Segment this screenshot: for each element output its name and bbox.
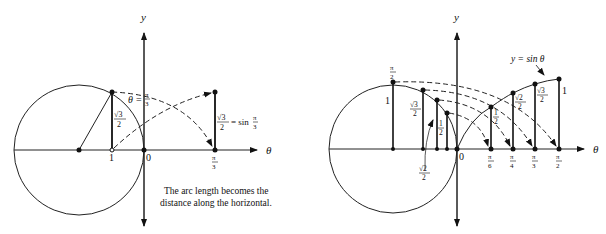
tick-pi4-num: π: [510, 153, 514, 161]
circle-half-num: 1: [439, 119, 443, 128]
tick-pi2-den: 2: [556, 162, 560, 170]
tick-pi6-num: π: [488, 153, 492, 161]
caption-line-1: The arc length becomes the: [164, 186, 268, 196]
circle-sqrt2-num: √2: [419, 164, 427, 173]
tick-pi6-den: 6: [488, 162, 492, 170]
circle-sqrt3-num: √3: [410, 100, 418, 109]
origin-label: 0: [146, 152, 151, 163]
origin-label-right: 0: [459, 151, 464, 162]
curve-label: y = sin θ: [510, 54, 545, 64]
angle-num: π: [145, 91, 149, 99]
tick-pi3-den: 3: [532, 162, 536, 170]
circle-sqrt2-den: 2: [422, 173, 426, 182]
left-panel: y θ 0 1 θ = π 3 √3 2 √3 2 = sin π 3 π 3 …: [14, 11, 272, 226]
sine-unwrapping-diagram: y θ 0 1 θ = π 3 √3 2 √3 2 = sin π 3 π 3 …: [0, 0, 606, 234]
tick-pi3-num: π: [532, 153, 536, 161]
curve-sqrt3-den: 2: [540, 95, 544, 104]
height-num: √3: [114, 110, 122, 119]
tick-num: π: [212, 154, 216, 162]
result-eq: = sin: [231, 117, 249, 127]
result-den: 2: [220, 123, 224, 132]
y-axis-label: y: [140, 11, 146, 23]
result-frac-num: π: [253, 114, 257, 122]
right-panel: y θ 0 y = sin θ π 2 1 √3 2 1 2 √2 2 1 2 …: [329, 11, 599, 226]
curve-sqrt2-num: √2: [515, 93, 523, 102]
circle-sqrt3-den: 2: [413, 109, 417, 118]
curve-one-label: 1: [562, 85, 567, 96]
result-num: √3: [217, 113, 225, 122]
radius-line: [79, 92, 112, 150]
tick-den: 3: [212, 163, 216, 171]
curve-half-den: 2: [494, 117, 498, 126]
curve-sqrt2-den: 2: [518, 102, 522, 111]
height-den: 2: [117, 120, 121, 129]
circle-one-label: 1: [385, 95, 390, 106]
angle-equals: =: [136, 94, 142, 105]
theta-axis-label: θ: [266, 144, 272, 156]
curve-sqrt3-num: √3: [537, 86, 545, 95]
unit-label: 1: [109, 152, 114, 163]
y-axis-label-right: y: [453, 11, 459, 23]
angle-den: 3: [145, 100, 149, 108]
theta-axis-label-right: θ: [593, 143, 599, 155]
arc-length-arrow: [112, 92, 212, 146]
curve-half-num: 1: [494, 108, 498, 117]
circle-top-num: π: [390, 64, 394, 72]
result-frac-den: 3: [253, 123, 257, 131]
angle-theta-label: θ: [128, 94, 133, 105]
tick-pi2-num: π: [556, 153, 560, 161]
circle-top-den: 2: [390, 73, 394, 81]
caption-line-2: distance along the horizontal.: [160, 198, 272, 208]
tick-pi4-den: 4: [510, 162, 514, 170]
circle-half-den: 2: [439, 128, 443, 137]
